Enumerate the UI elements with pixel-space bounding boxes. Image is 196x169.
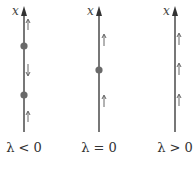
axis-arrowhead-icon xyxy=(21,6,27,16)
case-label: λ < 0 xyxy=(6,140,42,155)
fixed-point-lower xyxy=(20,91,27,98)
phase-line-diagram: x λ < 0 x λ = 0 x xyxy=(0,0,196,169)
flow-arrow-up-icon xyxy=(177,33,181,45)
panel-lambda-positive: x λ > 0 xyxy=(157,4,193,155)
axis-arrowhead-icon xyxy=(96,6,102,16)
panel-lambda-negative: x λ < 0 xyxy=(6,4,42,155)
fixed-point xyxy=(95,66,102,73)
flow-arrow-up-icon xyxy=(102,95,106,107)
flow-arrow-up-icon xyxy=(177,63,181,75)
flow-arrow-up-icon xyxy=(102,34,106,46)
case-label: λ > 0 xyxy=(157,140,193,155)
case-label: λ = 0 xyxy=(81,140,117,155)
axis-label-x: x xyxy=(12,4,19,18)
flow-arrow-up-icon xyxy=(26,111,30,122)
fixed-point-upper xyxy=(20,42,27,49)
axis-arrowhead-icon xyxy=(172,6,178,16)
flow-arrow-up-icon xyxy=(26,19,30,30)
axis-label-x: x xyxy=(163,4,170,18)
flow-arrow-down-icon xyxy=(26,64,30,76)
axis-label-x: x xyxy=(87,4,94,18)
panel-lambda-zero: x λ = 0 xyxy=(81,4,117,155)
flow-arrow-up-icon xyxy=(177,94,181,106)
